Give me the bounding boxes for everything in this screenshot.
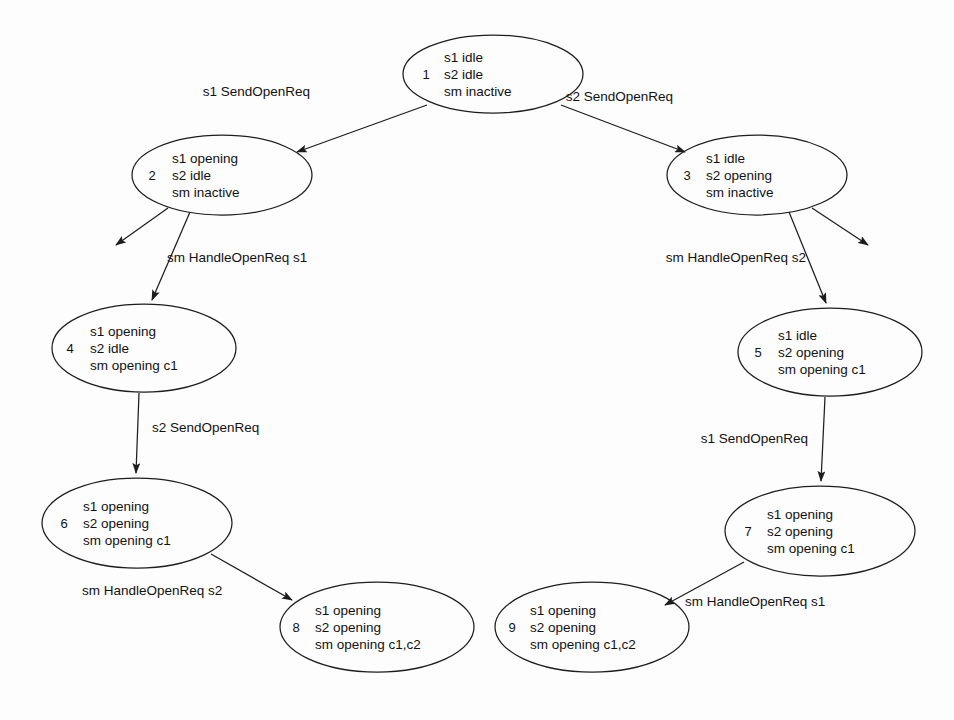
node-state-line: s2 opening xyxy=(767,524,833,539)
node-state-line: sm inactive xyxy=(444,84,512,99)
nodes-layer: 1s1 idles2 idlesm inactive2s1 openings2 … xyxy=(42,35,922,672)
edge-label: sm HandleOpenReq s1 xyxy=(685,594,825,609)
node-state-line: sm inactive xyxy=(172,185,240,200)
node-id-label: 8 xyxy=(292,620,299,635)
state-node-5[interactable]: 5s1 idles2 openingsm opening c1 xyxy=(738,308,922,396)
edge-label: s2 SendOpenReq xyxy=(566,89,673,104)
node-state-line: sm opening c1,c2 xyxy=(315,637,421,652)
edge-1-to-2: s1 SendOpenReq xyxy=(203,84,427,152)
node-id-label: 7 xyxy=(744,524,751,539)
node-state-line: s1 idle xyxy=(778,328,817,343)
edge-arrow xyxy=(812,208,868,245)
node-id-label: 3 xyxy=(683,168,690,183)
node-state-line: s2 idle xyxy=(90,341,129,356)
node-state-line: s2 opening xyxy=(530,620,596,635)
node-state-line: s1 idle xyxy=(444,50,483,65)
state-node-1[interactable]: 1s1 idles2 idlesm inactive xyxy=(403,35,583,113)
edge-label: sm HandleOpenReq s1 xyxy=(167,250,307,265)
edge-arrow xyxy=(136,393,139,473)
node-state-line: s1 opening xyxy=(172,151,238,166)
edge-3-to-5: sm HandleOpenReq s2 xyxy=(666,212,826,303)
node-state-line: sm opening c1 xyxy=(83,533,171,548)
state-node-8[interactable]: 8s1 openings2 openingsm opening c1,c2 xyxy=(280,582,474,672)
edge-5-to-7: s1 SendOpenReq xyxy=(701,397,825,481)
node-state-line: s1 opening xyxy=(530,603,596,618)
node-state-line: s1 opening xyxy=(90,324,156,339)
edge-label: s1 SendOpenReq xyxy=(701,431,808,446)
node-state-line: s2 idle xyxy=(444,67,483,82)
state-node-2[interactable]: 2s1 openings2 idlesm inactive xyxy=(132,135,312,215)
edge-arrow xyxy=(821,397,825,481)
node-ellipse xyxy=(132,135,312,215)
edge-2-dangling-left xyxy=(116,208,168,245)
node-state-line: s1 idle xyxy=(706,151,745,166)
node-state-line: s1 opening xyxy=(767,507,833,522)
edge-3-dangling-right xyxy=(812,208,868,245)
edge-arrow xyxy=(211,554,292,600)
node-ellipse xyxy=(403,35,583,113)
state-node-7[interactable]: 7s1 openings2 openingsm opening c1 xyxy=(725,486,915,576)
node-state-line: s1 opening xyxy=(315,603,381,618)
edge-label: sm HandleOpenReq s2 xyxy=(82,583,222,598)
edge-4-to-6: s2 SendOpenReq xyxy=(136,393,259,473)
node-id-label: 6 xyxy=(60,516,67,531)
node-ellipse xyxy=(52,304,236,392)
node-state-line: sm opening c1 xyxy=(90,358,178,373)
node-state-line: s1 opening xyxy=(83,499,149,514)
edge-label: s2 SendOpenReq xyxy=(152,420,259,435)
node-id-label: 9 xyxy=(508,620,515,635)
edge-label: sm HandleOpenReq s2 xyxy=(666,250,806,265)
node-id-label: 5 xyxy=(754,345,761,360)
state-node-3[interactable]: 3s1 idles2 openingsm inactive xyxy=(667,135,847,215)
edge-7-to-9: sm HandleOpenReq s1 xyxy=(665,562,825,609)
node-state-line: sm inactive xyxy=(706,185,774,200)
state-node-9[interactable]: 9s1 openings2 openingsm opening c1,c2 xyxy=(495,582,689,672)
node-state-line: s2 opening xyxy=(706,168,772,183)
edge-label: s1 SendOpenReq xyxy=(203,84,310,99)
state-transition-diagram: s1 SendOpenReqs2 SendOpenReqsm HandleOpe… xyxy=(0,0,954,720)
node-state-line: sm opening c1 xyxy=(778,362,866,377)
node-state-line: s2 opening xyxy=(83,516,149,531)
edge-arrow xyxy=(116,208,168,245)
node-id-label: 1 xyxy=(422,67,429,82)
node-state-line: sm opening c1,c2 xyxy=(530,637,636,652)
node-state-line: s2 idle xyxy=(172,168,211,183)
node-state-line: sm opening c1 xyxy=(767,541,855,556)
edge-2-to-4: sm HandleOpenReq s1 xyxy=(152,212,307,300)
node-id-label: 2 xyxy=(148,168,155,183)
state-node-6[interactable]: 6s1 openings2 openingsm opening c1 xyxy=(42,478,232,568)
node-state-line: s2 opening xyxy=(778,345,844,360)
edge-arrow xyxy=(561,105,685,152)
node-state-line: s2 opening xyxy=(315,620,381,635)
edge-1-to-3: s2 SendOpenReq xyxy=(561,89,685,152)
edge-arrow xyxy=(297,105,427,152)
diagram-canvas: s1 SendOpenReqs2 SendOpenReqsm HandleOpe… xyxy=(0,0,954,720)
state-node-4[interactable]: 4s1 openings2 idlesm opening c1 xyxy=(52,304,236,392)
node-id-label: 4 xyxy=(66,341,73,356)
